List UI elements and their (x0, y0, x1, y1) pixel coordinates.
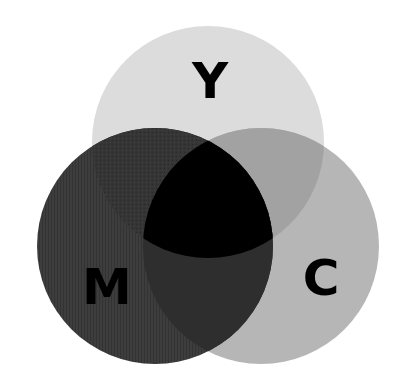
label-c: C (303, 249, 340, 307)
venn-diagram: Y M C (0, 0, 403, 390)
label-y: Y (191, 52, 229, 110)
label-m: M (82, 258, 132, 316)
